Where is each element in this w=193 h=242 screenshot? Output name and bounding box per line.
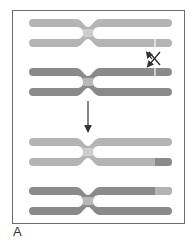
chromosome-dark-after — [29, 187, 172, 215]
chromosome-light-after — [29, 138, 172, 166]
centromere — [83, 197, 93, 205]
chromosome-light-before — [29, 19, 172, 48]
panel-label: A — [13, 225, 22, 238]
chromosome-dark-before — [29, 67, 172, 96]
exchanged-segment-dark — [155, 158, 172, 166]
exchange-x-icon — [148, 52, 160, 65]
exchanged-segment-light — [155, 187, 172, 195]
centromere — [83, 78, 93, 86]
crossover-diagram — [0, 0, 193, 242]
centromere — [83, 148, 93, 156]
centromere — [83, 29, 93, 37]
